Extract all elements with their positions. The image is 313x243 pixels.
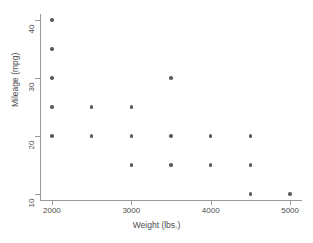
data-point — [169, 134, 173, 138]
data-point — [288, 192, 292, 196]
y-tick-mark — [35, 20, 40, 21]
y-tick-mark — [35, 194, 40, 195]
y-axis-title: Mileage (mpg) — [10, 53, 20, 107]
y-tick-mark — [35, 78, 40, 79]
data-point — [209, 134, 213, 138]
x-tick-mark — [211, 201, 212, 205]
data-point — [249, 163, 253, 167]
y-tick-label: 10 — [28, 199, 37, 208]
data-point — [90, 134, 94, 138]
x-tick-mark — [131, 201, 132, 205]
data-point — [90, 105, 94, 109]
data-point — [130, 134, 134, 138]
y-tick-label: 20 — [28, 141, 37, 150]
data-point — [130, 105, 134, 109]
x-tick-mark — [52, 201, 53, 205]
data-point — [50, 134, 54, 138]
x-tick-label: 5000 — [281, 206, 299, 215]
data-point — [50, 105, 54, 109]
x-tick-label: 4000 — [202, 206, 220, 215]
data-point — [50, 18, 54, 22]
data-point — [249, 192, 253, 196]
x-tick-label: 2000 — [43, 206, 61, 215]
data-point — [50, 47, 54, 51]
data-point — [169, 163, 173, 167]
data-point — [169, 76, 173, 80]
scatter-plot-figure: Mileage (mpg) Weight (lbs.) 102030402000… — [0, 0, 313, 243]
x-axis-line — [40, 200, 302, 201]
y-tick-label: 40 — [28, 24, 37, 33]
data-point — [50, 76, 54, 80]
x-tick-label: 3000 — [122, 206, 140, 215]
plot-area — [40, 14, 302, 200]
data-point — [249, 134, 253, 138]
x-tick-mark — [290, 201, 291, 205]
x-axis-title: Weight (lbs.) — [0, 220, 313, 230]
y-tick-label: 30 — [28, 82, 37, 91]
data-point — [209, 163, 213, 167]
data-point — [130, 163, 134, 167]
y-tick-mark — [35, 136, 40, 137]
